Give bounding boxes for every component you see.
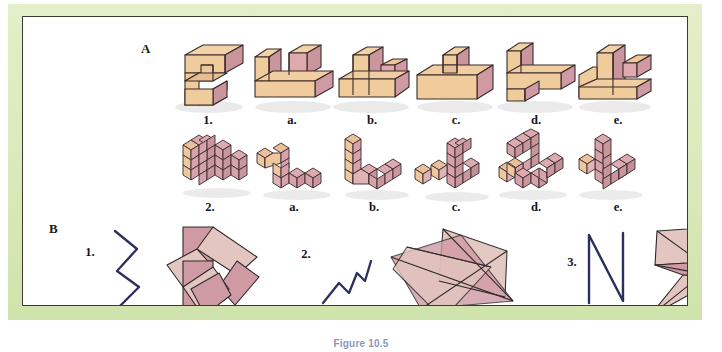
section-letter-b: B [49, 221, 58, 237]
zigzag-line-diagonal [317, 255, 383, 306]
label-a-row2-0: 2. [195, 200, 225, 215]
label-a-row2-5: e. [603, 200, 633, 215]
shape-a2-option-e [563, 129, 663, 201]
label-a-row1-4: d. [521, 113, 551, 128]
figure-plate: A [22, 16, 688, 306]
label-b-item-1: 1. [75, 245, 105, 260]
section-letter-a: A [141, 41, 150, 57]
label-a-row1-0: 1. [193, 113, 223, 128]
n-shaped-line [581, 225, 635, 306]
label-a-row2-2: b. [359, 200, 389, 215]
label-a-row2-3: c. [441, 200, 471, 215]
figure-caption: Figure 10.5 [0, 338, 722, 349]
label-a-row2-1: a. [279, 200, 309, 215]
overlapping-quadrilaterals [387, 223, 521, 306]
shape-a1-option-e [567, 35, 667, 115]
label-a-row1-5: e. [603, 113, 633, 128]
label-a-row2-4: d. [521, 200, 551, 215]
label-a-row1-2: b. [357, 113, 387, 128]
zigzag-line-vertical [105, 225, 155, 306]
kite-and-arrow-polygon [643, 223, 688, 306]
figure-outer-frame: A [8, 4, 702, 320]
label-a-row1-3: c. [441, 113, 471, 128]
pinwheel-polygon-group [161, 221, 271, 306]
label-a-row1-1: a. [277, 113, 307, 128]
